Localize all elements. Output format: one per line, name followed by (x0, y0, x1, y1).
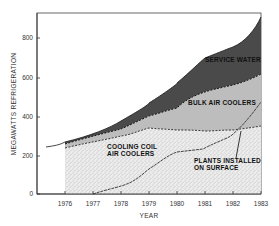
y-tick-600: 600 (22, 74, 33, 81)
y-tick-0: 0 (29, 190, 33, 197)
service-water-label: SERVICE WATER (205, 56, 261, 63)
y-tick-800: 800 (22, 34, 33, 41)
y-tick-labels: 0 200 400 600 800 (22, 34, 33, 197)
plants-installed-label-line1: PLANTS INSTALLED (194, 157, 261, 164)
x-tick-1978: 1978 (114, 200, 129, 207)
y-tick-400: 400 (22, 113, 33, 120)
x-tick-labels: 1976 1977 1978 1979 1980 1981 1982 1983 (58, 200, 269, 207)
total-curve-pre-1976 (46, 142, 65, 147)
plants-installed-label-line2: ON SURFACE (194, 164, 239, 171)
x-tick-1981: 1981 (198, 200, 213, 207)
y-tick-200: 200 (22, 152, 33, 159)
stacked-area-chart: 0 200 400 600 800 1976 1977 1978 1979 19… (0, 0, 279, 226)
x-tick-1982: 1982 (226, 200, 241, 207)
x-tick-1980: 1980 (170, 200, 185, 207)
x-tick-1976: 1976 (58, 200, 73, 207)
cooling-coil-label-line2: AIR COOLERS (107, 150, 155, 157)
y-axis-title: MEGAWATTS REFRIGERATION (10, 53, 17, 156)
bulk-air-coolers-label: BULK AIR COOLERS (188, 99, 256, 106)
x-tick-1977: 1977 (86, 200, 101, 207)
x-tick-1983: 1983 (254, 200, 269, 207)
cooling-coil-label-line1: COOLING COIL (107, 143, 157, 150)
x-axis-title: YEAR (140, 212, 159, 219)
x-tick-1979: 1979 (142, 200, 157, 207)
